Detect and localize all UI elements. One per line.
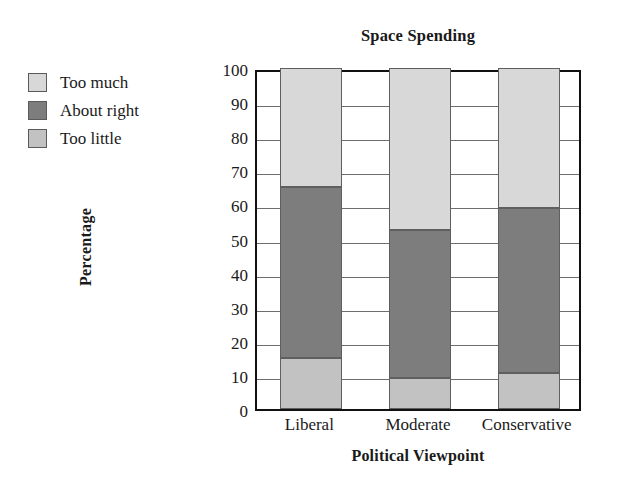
bar-segment[interactable] [280,68,342,187]
bar-moderate[interactable] [389,72,451,409]
bar-segment[interactable] [498,373,560,409]
y-axis-tick-label: 80 [202,130,248,147]
x-axis-title: Political Viewpoint [255,447,581,465]
x-axis-tick-label: Moderate [385,416,450,433]
legend-item-label: Too little [60,130,122,147]
legend-item-label: About right [60,102,139,119]
y-axis-tick-label: 20 [202,334,248,351]
bar-segment[interactable] [280,187,342,358]
x-axis-tick-labels: LiberalModerateConservative [255,416,581,440]
y-axis-tick-label: 70 [202,164,248,181]
y-axis-tick-label: 60 [202,198,248,215]
y-axis-tick-label: 0 [202,403,248,420]
legend-item[interactable]: Too little [28,124,198,152]
legend-item[interactable]: Too much [28,68,198,96]
plot-area [255,70,581,411]
legend-swatch-icon [28,73,47,92]
legend-item[interactable]: About right [28,96,198,124]
bar-segment[interactable] [280,358,342,409]
chart-title: Space Spending [255,26,581,46]
y-axis-tick-labels: 0102030405060708090100 [198,70,248,411]
y-axis-tick-label: 50 [202,232,248,249]
chart-figure: Space Spending Too muchAbout rightToo li… [0,0,618,487]
bar-segment[interactable] [498,208,560,373]
bar-segment[interactable] [389,378,451,409]
legend-swatch-icon [28,129,47,148]
bar-segment[interactable] [389,68,451,230]
y-axis-tick-label: 100 [202,62,248,79]
y-axis-tick-label: 10 [202,368,248,385]
bar-liberal[interactable] [280,72,342,409]
y-axis-title: Percentage [77,147,95,347]
bar-segment[interactable] [498,68,560,208]
legend-item-label: Too much [60,74,128,91]
y-axis-tick-label: 90 [202,96,248,113]
legend-swatch-icon [28,101,47,120]
chart-legend: Too muchAbout rightToo little [28,68,198,152]
y-axis-tick-label: 30 [202,300,248,317]
bar-segment[interactable] [389,230,451,378]
x-axis-tick-label: Liberal [285,416,334,433]
stacked-bars [257,72,579,409]
bar-conservative[interactable] [498,72,560,409]
y-axis-tick-label: 40 [202,266,248,283]
x-axis-tick-label: Conservative [482,416,572,433]
